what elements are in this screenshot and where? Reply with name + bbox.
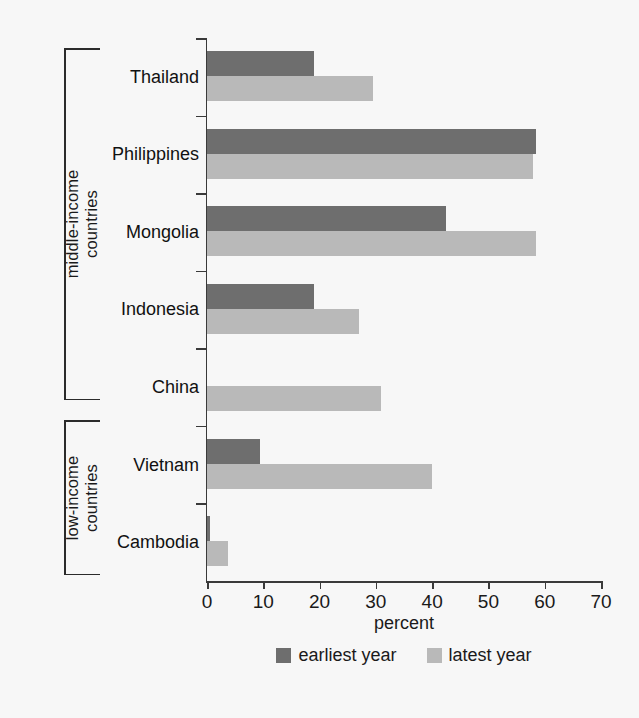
x-axis-tick-label: 30 <box>365 591 386 613</box>
group-bracket-middle-income: middle-income countries <box>64 48 100 400</box>
group-label-line2: countries <box>82 455 101 539</box>
x-axis-tick-label: 40 <box>422 591 443 613</box>
plot-area: Thailand Philippines Mongolia Indonesia … <box>207 38 601 581</box>
category-label: Philippines <box>112 145 199 163</box>
bar-latest <box>207 76 373 101</box>
x-axis-tick <box>320 581 322 589</box>
category-group: Indonesia <box>207 271 601 349</box>
legend-swatch-icon <box>427 648 442 663</box>
bracket-cap-top <box>64 420 100 422</box>
y-axis-tick <box>196 38 207 40</box>
group-label-line1: middle-income <box>63 170 81 279</box>
bar-earliest <box>207 516 210 541</box>
x-axis-tick-label: 60 <box>534 591 555 613</box>
x-axis-tick-label: 50 <box>478 591 499 613</box>
x-axis-tick <box>376 581 378 589</box>
bar-latest <box>207 464 432 489</box>
category-group: Mongolia <box>207 193 601 271</box>
y-axis-tick <box>196 193 207 195</box>
x-axis-tick <box>432 581 434 589</box>
bar-latest <box>207 231 536 256</box>
y-axis-tick <box>196 116 207 118</box>
x-axis-tick <box>263 581 265 589</box>
category-label: China <box>152 378 199 396</box>
group-label-line2: countries <box>82 170 101 279</box>
bracket-cap-bottom <box>64 574 100 576</box>
x-axis-tick <box>207 581 209 589</box>
bracket-cap-bottom <box>64 399 100 401</box>
x-axis-tick-label: 20 <box>309 591 330 613</box>
x-axis-tick <box>601 581 603 589</box>
category-group: Vietnam <box>207 426 601 504</box>
y-axis-tick <box>196 503 207 505</box>
category-group: Thailand <box>207 38 601 116</box>
legend-item-earliest-year: earliest year <box>276 645 396 666</box>
category-group: Cambodia <box>207 503 601 581</box>
group-bracket-low-income: low-income countries <box>64 420 100 575</box>
legend-label: latest year <box>449 645 532 666</box>
x-axis-tick-label: 70 <box>590 591 611 613</box>
group-label-line1: low-income <box>63 455 81 539</box>
category-group: Philippines <box>207 116 601 194</box>
chart-legend: earliest year latest year <box>207 645 601 666</box>
bar-earliest <box>207 439 260 464</box>
category-label: Thailand <box>130 68 199 86</box>
category-group: China <box>207 348 601 426</box>
category-label: Indonesia <box>121 300 199 318</box>
x-axis-tick-label: 0 <box>202 591 213 613</box>
group-label-middle-income: middle-income countries <box>63 170 101 279</box>
bar-earliest <box>207 284 314 309</box>
bar-earliest <box>207 129 536 154</box>
x-axis-tick <box>488 581 490 589</box>
bar-latest <box>207 541 228 566</box>
bar-latest <box>207 386 381 411</box>
category-label: Vietnam <box>133 456 199 474</box>
category-label: Cambodia <box>117 533 199 551</box>
bar-latest <box>207 154 533 179</box>
x-axis-title: percent <box>207 613 601 634</box>
bar-latest <box>207 309 359 334</box>
y-axis-tick <box>196 348 207 350</box>
x-axis-line <box>206 581 602 583</box>
category-label: Mongolia <box>126 223 199 241</box>
legend-label: earliest year <box>298 645 396 666</box>
legend-item-latest-year: latest year <box>427 645 532 666</box>
group-label-low-income: low-income countries <box>63 455 101 539</box>
legend-swatch-icon <box>276 648 291 663</box>
x-axis-tick-label: 10 <box>253 591 274 613</box>
bar-earliest <box>207 206 446 231</box>
y-axis-tick <box>196 426 207 428</box>
y-axis-tick <box>196 271 207 273</box>
bar-earliest <box>207 51 314 76</box>
x-axis-tick <box>545 581 547 589</box>
bar-chart-figure: middle-income countries low-income count… <box>0 0 639 718</box>
bracket-cap-top <box>64 48 100 50</box>
